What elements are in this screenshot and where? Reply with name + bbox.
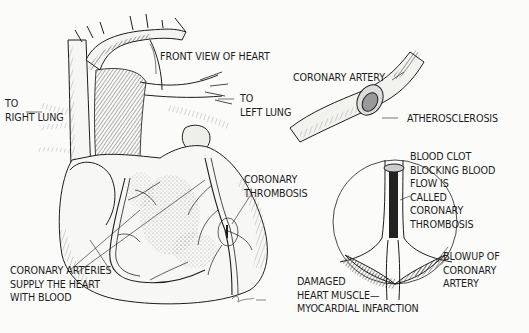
label-atherosclerosis: ATHEROSCLEROSIS xyxy=(407,112,498,126)
label-coronary-thrombosis: CORONARY THROMBOSIS xyxy=(244,173,308,200)
artist-signature xyxy=(232,296,266,302)
label-front-view-of-heart: FRONT VIEW OF HEART xyxy=(160,50,270,64)
label-blood-clot: BLOOD CLOT BLOCKING BLOOD FLOW IS CALLED… xyxy=(410,150,495,231)
label-to-left-lung: TO LEFT LUNG xyxy=(240,92,291,119)
heart-diagram: FRONT VIEW OF HEART TO RIGHT LUNG TO LEF… xyxy=(0,0,529,333)
label-damaged-heart-muscle: DAMAGED HEART MUSCLE— MYOCARDIAL INFARCT… xyxy=(297,275,419,316)
label-coronary-arteries-supply: CORONARY ARTERIES SUPPLY THE HEART WITH … xyxy=(10,264,112,305)
coronary-artery-cutaway xyxy=(290,52,424,142)
label-to-right-lung: TO RIGHT LUNG xyxy=(5,97,64,124)
label-blowup-of-coronary-artery: BLOWUP OF CORONARY ARTERY xyxy=(443,250,500,291)
label-coronary-artery: CORONARY ARTERY xyxy=(293,71,385,85)
